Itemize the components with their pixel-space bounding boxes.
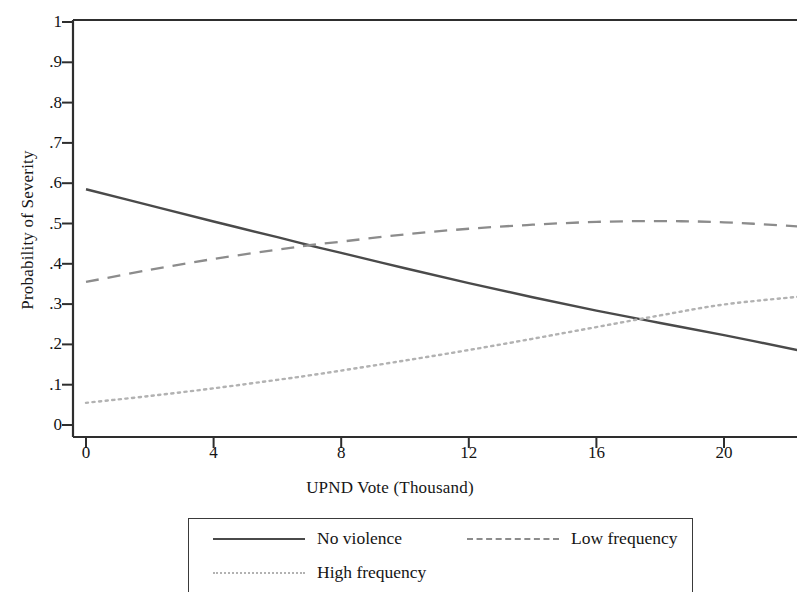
chart-figure: 0.1.2.3.4.5.6.7.8.91 Probability of Seve…: [0, 0, 797, 593]
y-tick-label: .8: [28, 94, 62, 111]
x-tick-label-group: 048121620: [0, 444, 797, 470]
data-series-layer: [86, 189, 797, 403]
legend-row: High frequency: [189, 555, 692, 589]
x-tick-label: 8: [321, 444, 361, 461]
legend-entry-no-violence: No violence: [213, 521, 402, 555]
legend-line-sample-dashed: [467, 531, 559, 545]
y-axis-title: Probability of Severity: [18, 110, 38, 350]
legend-line-sample-dotted: [213, 565, 305, 579]
legend-label-no-violence: No violence: [317, 528, 402, 549]
y-tick-label: .1: [28, 376, 62, 393]
y-tick-label: .9: [28, 53, 62, 70]
plot-area: [0, 0, 797, 450]
x-tick-label: 12: [449, 444, 489, 461]
legend-line-sample-solid: [213, 531, 305, 545]
series-line-high-frequency: [86, 297, 797, 403]
legend-label-low-frequency: Low frequency: [571, 528, 677, 549]
legend-row: No violence Low frequency: [189, 521, 692, 555]
y-tick-label: 0: [28, 416, 62, 433]
x-tick-label: 20: [704, 444, 744, 461]
x-tick-label: 0: [66, 444, 106, 461]
series-line-no-violence: [86, 189, 797, 350]
legend-entry-high-frequency: High frequency: [213, 555, 426, 589]
y-axis-ticks: [62, 22, 73, 425]
x-axis-title: UPND Vote (Thousand): [0, 478, 780, 498]
x-tick-label: 16: [576, 444, 616, 461]
legend-entry-low-frequency: Low frequency: [467, 521, 677, 555]
y-tick-label: 1: [28, 13, 62, 30]
chart-legend: No violence Low frequency High frequency: [188, 518, 693, 592]
legend-label-high-frequency: High frequency: [317, 562, 426, 583]
series-line-low-frequency: [86, 221, 797, 282]
x-tick-label: 4: [194, 444, 234, 461]
axis-frame: [73, 20, 797, 437]
